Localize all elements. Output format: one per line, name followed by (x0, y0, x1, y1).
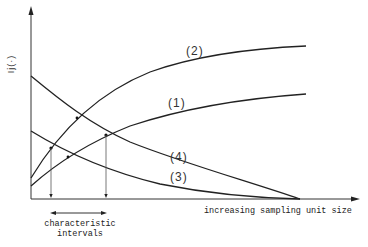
interval-double-arrow (50, 211, 107, 215)
y-axis (29, 6, 34, 199)
interval-label-line1: characteristic (40, 219, 120, 229)
y-axis-arrow-icon (29, 6, 34, 15)
curve-label-4: (4) (170, 150, 188, 164)
drop-line-left (49, 148, 52, 198)
intersection-1-3 (67, 156, 70, 159)
curve-2 (31, 46, 306, 178)
arrow-down-icon (49, 194, 52, 198)
intersection-2-4 (76, 117, 79, 120)
characteristic-intervals-label: characteristic intervals (40, 219, 120, 239)
arrow-right-icon (101, 211, 107, 215)
arrow-left-icon (50, 211, 56, 215)
x-axis-label: increasing sampling unit size (204, 206, 352, 216)
interval-label-line2: intervals (40, 229, 120, 239)
arrow-down-icon (104, 194, 107, 198)
curve-label-1: (1) (168, 96, 186, 110)
x-axis-arrow-icon (351, 197, 360, 202)
curve-3 (31, 131, 300, 199)
curve-label-2: (2) (186, 44, 204, 58)
x-axis (31, 197, 360, 202)
y-axis-label: Ij(·) (6, 44, 20, 84)
curve-label-3: (3) (170, 170, 188, 184)
curve-4 (31, 76, 300, 199)
